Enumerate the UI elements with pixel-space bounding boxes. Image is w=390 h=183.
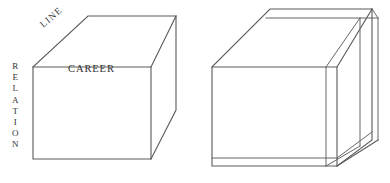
cube-diagram-svg [0, 0, 390, 183]
right-cube-group [212, 9, 378, 166]
relation-letter: R [12, 61, 19, 72]
left-cube-front-face [33, 67, 151, 159]
relation-letter: A [12, 95, 19, 106]
relation-letter: N [12, 139, 19, 150]
relation-letter: E [12, 72, 19, 83]
relation-letter: T [12, 106, 19, 117]
label-relation: R E L A T I O N [12, 61, 19, 151]
relation-letter: L [12, 83, 19, 94]
right-cube-front-face [212, 67, 337, 166]
label-career: CAREER [68, 63, 115, 74]
relation-letter: I [12, 117, 19, 128]
diagram-canvas: CAREER LINE R E L A T I O N [0, 0, 390, 183]
right-cube-top-slab-corner-line [372, 9, 378, 18]
relation-letter: O [12, 128, 19, 139]
left-cube-group [33, 16, 176, 159]
